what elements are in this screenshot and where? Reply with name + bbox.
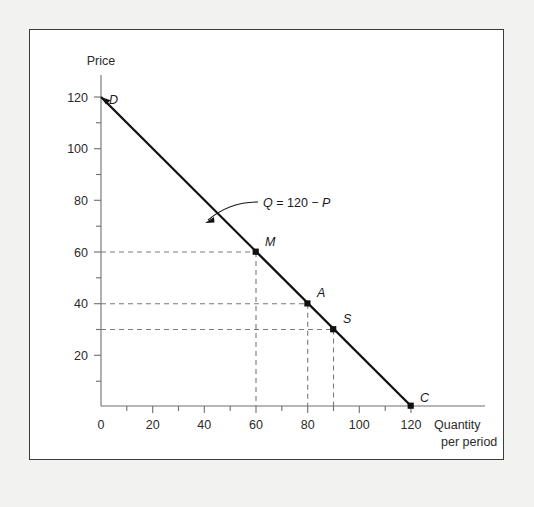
- equation-q: Q: [263, 196, 273, 210]
- point-label-a: A: [316, 286, 325, 300]
- equation-annotation: Q = 120 − P: [263, 196, 331, 210]
- x-tick-label-20: 20: [146, 418, 160, 432]
- figure-frame: 20 40 60 80 100 120 0 20 40 60 80 100 12…: [29, 29, 504, 460]
- y-tick-label-20: 20: [74, 349, 88, 363]
- y-tick-label-40: 40: [74, 297, 88, 311]
- y-tick-label-100: 100: [67, 142, 88, 156]
- y-tick-label-80: 80: [74, 194, 88, 208]
- point-marker-c: [408, 403, 414, 409]
- x-tick-label-60: 60: [249, 418, 263, 432]
- point-marker-s: [330, 326, 336, 332]
- y-tick-label-120: 120: [67, 91, 88, 105]
- equation-operator: = 120 −: [273, 196, 322, 210]
- x-tick-label-100: 100: [349, 418, 370, 432]
- demand-curve-chart: 20 40 60 80 100 120 0 20 40 60 80 100 12…: [30, 30, 503, 459]
- x-axis-title-line1: Quantity: [434, 418, 481, 432]
- x-tick-label-0: 0: [98, 418, 105, 432]
- figure-root: 20 40 60 80 100 120 0 20 40 60 80 100 12…: [0, 0, 534, 507]
- point-label-c: C: [420, 391, 430, 405]
- point-label-m: M: [265, 235, 276, 249]
- point-marker-m: [253, 249, 259, 255]
- y-tick-label-60: 60: [74, 246, 88, 260]
- point-marker-a: [304, 300, 310, 306]
- x-axis-title-line2: per period: [441, 435, 497, 449]
- point-label-d: D: [109, 93, 118, 107]
- x-tick-label-40: 40: [197, 418, 211, 432]
- x-tick-label-120: 120: [401, 418, 422, 432]
- y-axis-title: Price: [87, 54, 116, 68]
- equation-p: P: [322, 196, 331, 210]
- x-tick-label-80: 80: [301, 418, 315, 432]
- point-label-s: S: [343, 312, 352, 326]
